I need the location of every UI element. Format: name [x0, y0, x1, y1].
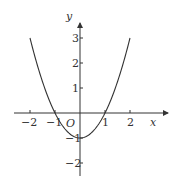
y-tick-label: 2: [72, 57, 79, 70]
y-tick-label: 3: [72, 32, 79, 45]
x-tick-label: 2: [127, 116, 134, 129]
origin-label: O: [66, 117, 75, 130]
y-tick-label: 1: [72, 82, 79, 95]
parabola-plot: −2−112 321−1−2 x y O: [0, 0, 183, 184]
x-tick-label: 1: [102, 116, 109, 129]
y-tick-label: −2: [65, 157, 81, 170]
y-tick-label: −1: [65, 132, 81, 145]
x-tick-label: −2: [21, 116, 37, 129]
x-axis-label: x: [150, 116, 157, 129]
y-axis-label: y: [65, 10, 73, 23]
